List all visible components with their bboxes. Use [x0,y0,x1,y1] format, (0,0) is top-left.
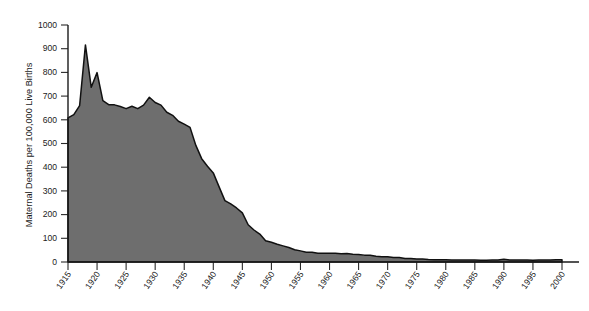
x-tick-label: 1995 [519,269,538,291]
y-tick-label: 900 [43,43,58,53]
x-tick-label: 1970 [374,269,393,291]
y-tick-label: 800 [43,67,58,77]
y-tick-mark-group [61,25,68,262]
x-tick-label: 1925 [112,269,131,291]
y-tick-label: 600 [43,115,58,125]
x-tick-label: 1915 [54,269,73,291]
maternal-mortality-area-chart: Maternal Deaths per 100,000 Live Births … [0,0,589,311]
maternal-deaths-area-series [68,45,562,262]
x-tick-label: 1985 [461,269,480,291]
x-tick-mark-group [68,262,562,270]
x-tick-label: 1990 [490,269,509,291]
chart-canvas: Maternal Deaths per 100,000 Live Births … [0,0,589,311]
x-tick-label: 1950 [257,269,276,291]
x-tick-label: 1930 [141,269,160,291]
y-tick-label: 700 [43,91,58,101]
y-tick-label: 1000 [38,20,57,30]
x-tick-label: 1920 [83,269,102,291]
x-tick-label: 1945 [228,269,247,291]
y-tick-label: 500 [43,138,58,148]
y-tick-label: 200 [43,209,58,219]
x-tick-label: 1965 [345,269,364,291]
x-tick-label: 1980 [432,269,451,291]
x-tick-label: 2000 [548,269,567,291]
y-axis-title: Maternal Deaths per 100,000 Live Births [24,62,34,227]
x-tick-label-group: 1915192019251930193519401945195019551960… [54,269,567,291]
x-tick-label: 1940 [199,269,218,291]
x-tick-label: 1960 [316,269,335,291]
y-axis-title-group: Maternal Deaths per 100,000 Live Births [24,62,34,227]
y-tick-label-group: 01002003004005006007008009001000 [38,20,57,267]
y-tick-label: 300 [43,186,58,196]
y-tick-label: 400 [43,162,58,172]
x-tick-label: 1955 [286,269,305,291]
x-tick-label: 1935 [170,269,189,291]
x-tick-label: 1975 [403,269,422,291]
y-tick-label: 100 [43,233,58,243]
y-tick-label: 0 [52,257,57,267]
